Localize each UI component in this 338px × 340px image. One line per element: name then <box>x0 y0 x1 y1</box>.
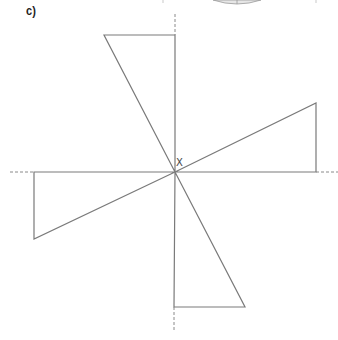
center-point-label: X <box>176 157 183 168</box>
triangle-bottom <box>174 172 245 307</box>
triangle-left <box>34 172 175 239</box>
rotation-diagram: X <box>0 0 338 340</box>
triangle-right <box>175 103 316 172</box>
triangle-top <box>104 35 175 172</box>
